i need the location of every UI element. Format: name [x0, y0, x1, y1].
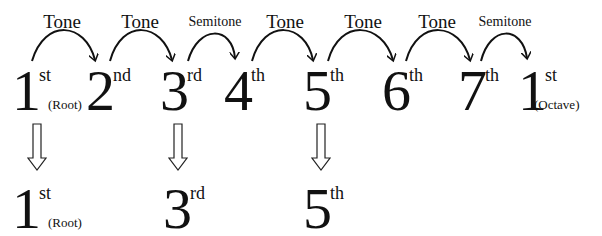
degree-number: 5: [303, 180, 330, 236]
degree-number: 2: [86, 62, 113, 120]
degree-suffix: th: [485, 66, 499, 84]
degree-suffix: rd: [190, 184, 205, 202]
step-label-1: Tone: [43, 12, 81, 31]
step-label-2: Tone: [121, 12, 159, 31]
chord-tone-5: 5th: [303, 180, 344, 236]
scale-degree-6: 6th: [382, 62, 423, 120]
degree-suffix: nd: [113, 66, 131, 84]
degree-note: (Octave): [534, 98, 579, 111]
step-label-6: Tone: [418, 12, 456, 31]
degree-note: (Root): [48, 216, 82, 229]
degree-number: 3: [163, 180, 190, 236]
degree-suffix: st: [545, 66, 557, 84]
scale-degree-7: 7th: [458, 62, 499, 120]
step-label-5: Tone: [344, 12, 382, 31]
step-arc-2: [110, 30, 172, 61]
degree-suffix: st: [39, 184, 51, 202]
degree-number: 5: [303, 62, 330, 120]
step-arc-4: [252, 30, 313, 61]
step-arc-6: [406, 30, 470, 61]
degree-suffix: th: [251, 66, 265, 84]
degree-suffix: th: [330, 184, 344, 202]
step-arc-1: [32, 30, 95, 61]
degree-number: 6: [382, 62, 409, 120]
degree-number: 3: [160, 62, 187, 120]
step-label-4: Tone: [266, 12, 304, 31]
scale-degree-1: 1st (Root): [12, 62, 51, 120]
step-arc-5: [328, 30, 393, 61]
degree-suffix: th: [330, 66, 344, 84]
scale-degree-5: 5th: [303, 62, 344, 120]
down-arrow-3: [312, 124, 330, 170]
step-arc-7: [481, 34, 527, 61]
chord-tone-3: 3rd: [163, 180, 205, 236]
down-arrow-2: [169, 124, 187, 170]
down-arrow-1: [28, 124, 46, 170]
scale-degree-octave: 1st (Octave): [518, 62, 557, 120]
step-arc-3: [188, 34, 235, 61]
scale-degree-3: 3rd: [160, 62, 202, 120]
chord-tone-1: 1st (Root): [12, 180, 51, 236]
degree-suffix: rd: [187, 66, 202, 84]
degree-note: (Root): [48, 98, 82, 111]
scale-degree-4: 4th: [224, 62, 265, 120]
degree-number: 1: [12, 180, 39, 236]
degree-number: 4: [224, 62, 251, 120]
degree-suffix: th: [409, 66, 423, 84]
degree-number: 1: [12, 62, 39, 120]
degree-number: 7: [458, 62, 485, 120]
step-label-3: Semitone: [189, 15, 242, 29]
step-label-7: Semitone: [479, 15, 532, 29]
scale-degree-2: 2nd: [86, 62, 131, 120]
degree-suffix: st: [39, 66, 51, 84]
